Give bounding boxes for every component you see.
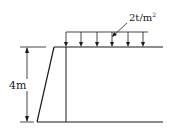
load-leader-line — [114, 23, 127, 35]
arrow-down-icon — [126, 42, 130, 47]
arrow-up-icon — [25, 47, 29, 53]
height-label: 4m — [9, 79, 27, 92]
distributed-load: 2t/m2 — [64, 11, 156, 47]
wall-slanted-face — [37, 47, 54, 122]
load-arrows — [64, 32, 145, 47]
height-dimension: 4m — [8, 47, 46, 122]
load-exponent: 2 — [152, 11, 156, 18]
arrow-down-icon — [64, 42, 68, 47]
arrow-down-icon — [110, 42, 114, 47]
arrow-down-icon — [25, 116, 29, 122]
arrow-down-icon — [95, 42, 99, 47]
svg-text:2t/m2: 2t/m2 — [129, 11, 156, 23]
arrow-down-icon — [141, 42, 145, 47]
retaining-wall-diagram: 4m 2t/m2 — [0, 0, 172, 133]
load-label: 2t/m — [129, 12, 153, 23]
arrow-down-icon — [79, 42, 83, 47]
